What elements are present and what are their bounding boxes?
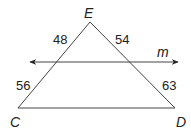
triangle-diagram: E C D m 48 54 56 63	[0, 0, 191, 136]
vertex-label-e: E	[84, 5, 94, 21]
vertex-label-c: C	[10, 114, 21, 130]
line-label-m: m	[157, 44, 169, 60]
segment-label-upper-right: 54	[115, 32, 129, 47]
segment-label-upper-left: 48	[53, 32, 67, 47]
vertex-label-d: D	[176, 114, 186, 130]
segment-label-lower-right: 63	[162, 78, 176, 93]
segment-label-lower-left: 56	[16, 78, 30, 93]
triangle-ecd	[18, 22, 175, 108]
